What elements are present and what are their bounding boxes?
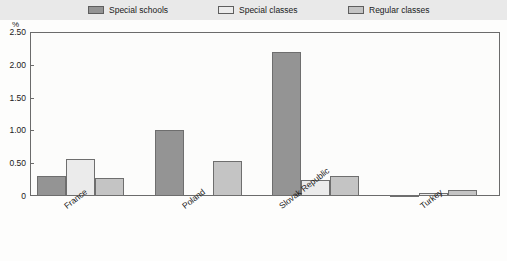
legend-swatch-icon: [88, 6, 104, 14]
legend-item-special-schools: Special schools: [88, 4, 168, 16]
bar-turkey-regular-classes: [448, 190, 477, 196]
legend-item-label: Special classes: [239, 6, 298, 15]
y-axis-tick-mark: [30, 98, 34, 99]
y-axis-tick-mark: [30, 130, 34, 131]
legend-item-label: Regular classes: [369, 6, 429, 15]
bar-france-special-schools: [37, 176, 66, 196]
bar-turkey-special-schools: [390, 195, 419, 197]
y-axis-tick-label: 2.50: [0, 27, 26, 37]
bar-slovak-republic-regular-classes: [330, 176, 359, 196]
y-axis-tick-label: 1.50: [0, 93, 26, 103]
y-axis-tick-mark: [30, 163, 34, 164]
plot-area: [30, 32, 500, 196]
legend-swatch-icon: [218, 6, 234, 14]
bar-poland-regular-classes: [213, 161, 242, 196]
bar-poland-special-schools: [155, 130, 184, 196]
y-axis-tick-label: 1.00: [0, 125, 26, 135]
legend-item-label: Special schools: [109, 6, 168, 15]
y-axis-tick-label: 0: [0, 191, 26, 201]
y-axis-tick-label: 2.00: [0, 60, 26, 70]
y-axis-tick-mark: [30, 65, 34, 66]
legend-swatch-icon: [348, 6, 364, 14]
bar-slovak-republic-special-schools: [272, 52, 301, 196]
legend-item-regular-classes: Regular classes: [348, 4, 429, 16]
bar-france-regular-classes: [95, 178, 124, 196]
legend-item-special-classes: Special classes: [218, 4, 298, 16]
y-axis-tick-label: 0.50: [0, 158, 26, 168]
